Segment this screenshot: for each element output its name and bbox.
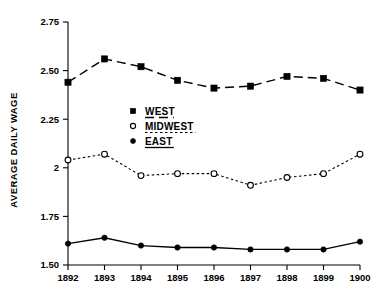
chart-legend: WESTMIDWESTEAST (130, 106, 195, 148)
y-tick-label: 1.75 (41, 211, 60, 222)
series-west (65, 56, 363, 93)
x-tick-label: 1894 (130, 272, 152, 283)
data-point (248, 247, 253, 252)
x-tick-label: 1892 (57, 272, 78, 283)
data-point (101, 56, 107, 62)
data-point (102, 235, 107, 240)
x-tick-label: 1898 (276, 272, 297, 283)
data-point (102, 151, 108, 157)
data-point (284, 175, 290, 181)
legend-marker-midwest (130, 123, 135, 128)
data-point (65, 157, 71, 163)
x-tick-label: 1897 (240, 272, 261, 283)
data-point (320, 75, 326, 81)
data-point (65, 79, 71, 85)
legend-label-west: WEST (145, 106, 175, 117)
chart-container: 1.501.7522.252.502.75 189218931894189518… (0, 0, 375, 296)
legend-marker-east (131, 139, 136, 144)
y-axis-title: AVERAGE DAILY WAGE (8, 92, 19, 207)
data-point (321, 171, 327, 177)
chart-axes (68, 22, 360, 265)
data-point (211, 85, 217, 91)
data-point (211, 171, 217, 177)
data-point (174, 77, 180, 83)
series-midwest (65, 151, 363, 188)
legend-marker-west (130, 108, 135, 113)
series-east (65, 235, 362, 252)
y-tick-label: 2 (54, 162, 59, 173)
data-point (211, 245, 216, 250)
y-tick-label: 2.25 (41, 114, 60, 125)
y-tick-label: 2.75 (41, 16, 60, 27)
data-point (247, 83, 253, 89)
data-point (248, 182, 254, 188)
data-point (357, 239, 362, 244)
data-point (138, 173, 144, 179)
data-point (357, 151, 363, 157)
data-point (175, 245, 180, 250)
x-tick-label: 1896 (203, 272, 224, 283)
data-point (175, 171, 181, 177)
series-line-midwest (68, 154, 360, 185)
y-tick-label: 2.50 (41, 65, 60, 76)
data-point (284, 73, 290, 79)
x-tick-label: 1895 (167, 272, 189, 283)
x-tick-label: 1893 (94, 272, 115, 283)
data-point (138, 243, 143, 248)
x-tick-label: 1899 (313, 272, 334, 283)
x-tick-label: 1900 (349, 272, 370, 283)
x-axis-ticks: 189218931894189518961897189818991900 (57, 265, 370, 283)
data-point (357, 87, 363, 93)
line-chart: 1.501.7522.252.502.75 189218931894189518… (0, 0, 375, 296)
y-axis-ticks: 1.501.7522.252.502.75 (41, 16, 69, 270)
data-point (284, 247, 289, 252)
chart-series-group (65, 56, 363, 252)
y-tick-label: 1.50 (41, 259, 60, 270)
data-point (321, 247, 326, 252)
legend-label-midwest: MIDWEST (145, 121, 194, 132)
data-point (65, 241, 70, 246)
legend-label-east: EAST (145, 136, 172, 147)
data-point (138, 64, 144, 70)
